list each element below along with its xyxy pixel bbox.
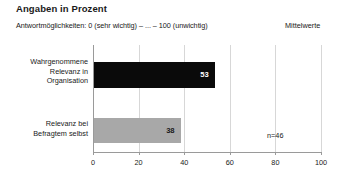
x-tick-label-0: 0 [91, 158, 95, 167]
page-title: Angaben in Prozent [16, 3, 107, 14]
x-tick-80 [275, 152, 276, 155]
bar-value-wahrgenommene-relevanz: 53 [200, 71, 208, 79]
bar-value-relevanz-befragter: 38 [166, 127, 174, 135]
category-label-wahrgenommene-relevanz: Wahrgenommene Relevanz in Organisation [6, 57, 88, 86]
x-tick-label-100: 100 [315, 158, 327, 167]
x-tick-label-40: 40 [180, 158, 188, 167]
category-label-relevanz-befragter: Relevanz bei Befragtem selbst [6, 119, 88, 138]
x-tick-40 [184, 152, 185, 155]
x-tick-20 [139, 152, 140, 155]
gridline-100 [321, 45, 322, 152]
chart-figure: Angaben in Prozent Antwortmöglichkeiten:… [0, 0, 349, 186]
x-tick-label-20: 20 [135, 158, 143, 167]
chart-subtitle: Antwortmöglichkeiten: 0 (sehr wichtig) –… [16, 21, 208, 30]
plot-area: 53 38 0 20 40 60 80 100 [93, 45, 321, 152]
mittelwerte-label: Mittelwerte [285, 21, 320, 30]
bar-wahrgenommene-relevanz: 53 [94, 62, 215, 88]
gridline-60 [230, 45, 231, 152]
x-axis-line [93, 152, 322, 153]
sample-size-annotation: n=46 [267, 131, 283, 140]
x-tick-100 [321, 152, 322, 155]
bar-relevanz-befragter: 38 [94, 118, 181, 143]
x-tick-0 [93, 152, 94, 155]
x-tick-60 [230, 152, 231, 155]
x-tick-label-80: 80 [271, 158, 279, 167]
x-tick-label-60: 60 [226, 158, 234, 167]
